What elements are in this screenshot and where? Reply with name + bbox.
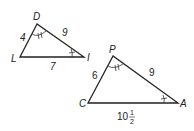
side-ca-whole: 10	[117, 111, 129, 122]
side-pc-label: 6	[92, 70, 98, 81]
triangle-dli: D L I 4 9 7	[11, 11, 90, 72]
side-dl-label: 4	[20, 32, 26, 43]
angle-a-tick	[161, 98, 167, 99]
side-li-label: 7	[50, 61, 56, 72]
side-ca-numerator: 1	[130, 109, 134, 116]
vertex-d-label: D	[33, 11, 40, 22]
angle-i-tick	[69, 52, 75, 53]
vertex-a-label: A	[179, 98, 187, 109]
triangle-pca: P C A 6 9 10 1 2	[79, 44, 187, 125]
side-ca-denominator: 2	[130, 118, 134, 125]
side-di-label: 9	[62, 27, 68, 38]
side-pa-label: 9	[149, 67, 155, 78]
angle-d-tick2	[41, 32, 42, 38]
angle-d-tick1	[38, 33, 39, 39]
diagram-svg: D L I 4 9 7 P C A 6 9 10 1 2	[0, 0, 194, 131]
angle-p-tick1	[115, 65, 116, 71]
angle-p-tick2	[118, 64, 119, 70]
vertex-l-label: L	[11, 53, 17, 64]
triangle-pca-outline	[88, 56, 178, 103]
similar-triangles-diagram: D L I 4 9 7 P C A 6 9 10 1 2	[0, 0, 194, 131]
vertex-p-label: P	[109, 44, 116, 55]
vertex-i-label: I	[87, 52, 90, 63]
vertex-c-label: C	[79, 98, 87, 109]
angle-d-arc	[32, 31, 46, 35]
